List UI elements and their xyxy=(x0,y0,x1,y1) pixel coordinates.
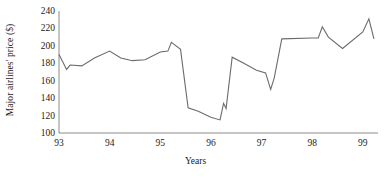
x-axis-title: Years xyxy=(0,156,391,166)
line-chart: Major airlines' price ($) 24022020018016… xyxy=(0,0,391,178)
plot-area xyxy=(0,0,391,178)
data-series-line xyxy=(59,19,374,120)
